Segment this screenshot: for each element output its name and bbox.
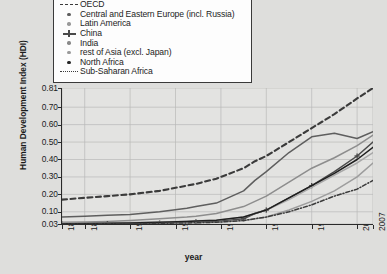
series-line-0 [62, 88, 373, 200]
x-axis-line [61, 224, 373, 225]
legend-key-dot-pale [58, 48, 80, 57]
hdi-line-chart: OECD Central and Eastern Europe (incl. R… [0, 0, 387, 274]
y-tick-label: 0.03 [14, 219, 58, 229]
legend-key-dot-light [58, 19, 80, 28]
legend-key-dot [58, 10, 80, 19]
y-tick-label: 0.50 [14, 137, 58, 147]
x-tick-mark [85, 225, 86, 229]
y-tick-label: 0.81 [14, 83, 58, 93]
x-tick-mark [130, 225, 131, 229]
x-tick-mark [176, 225, 177, 229]
x-axis-label: year [0, 252, 387, 262]
series-line-6 [62, 147, 373, 223]
legend-key-dashed-line [58, 0, 80, 9]
x-tick-label: 2007 [377, 212, 387, 231]
legend-item-china: China [58, 29, 247, 39]
x-tick-mark [373, 225, 374, 229]
legend-key-cross [58, 29, 80, 38]
x-tick-mark [221, 225, 222, 229]
chart-legend: OECD Central and Eastern Europe (incl. R… [53, 0, 252, 83]
x-tick-mark [357, 225, 358, 229]
x-tick-mark [312, 225, 313, 229]
y-tick-label: 0.20 [14, 189, 58, 199]
legend-item-sub-saharan-africa: Sub-Saharan Africa [58, 67, 247, 77]
y-tick-label: 0.70 [14, 102, 58, 112]
series-canvas [62, 88, 373, 224]
y-tick-label: 0.10 [14, 206, 58, 216]
y-tick-label: 0.40 [14, 154, 58, 164]
grid-lines [62, 88, 373, 224]
legend-label: rest of Asia (excl. Japan) [80, 48, 172, 57]
y-tick-label: 0.30 [14, 171, 58, 181]
legend-key-dot-faint [58, 39, 80, 48]
legend-key-dot-dark [58, 58, 80, 67]
legend-label: Sub-Saharan Africa [80, 67, 153, 76]
legend-label: China [80, 29, 102, 38]
legend-label: OECD [80, 0, 104, 9]
plot-area [62, 88, 373, 224]
series-line-1 [62, 132, 373, 217]
legend-key-dash-dot-line [58, 67, 80, 76]
x-tick-mark [62, 225, 63, 229]
y-tick-label: 0.60 [14, 119, 58, 129]
x-tick-mark [266, 225, 267, 229]
